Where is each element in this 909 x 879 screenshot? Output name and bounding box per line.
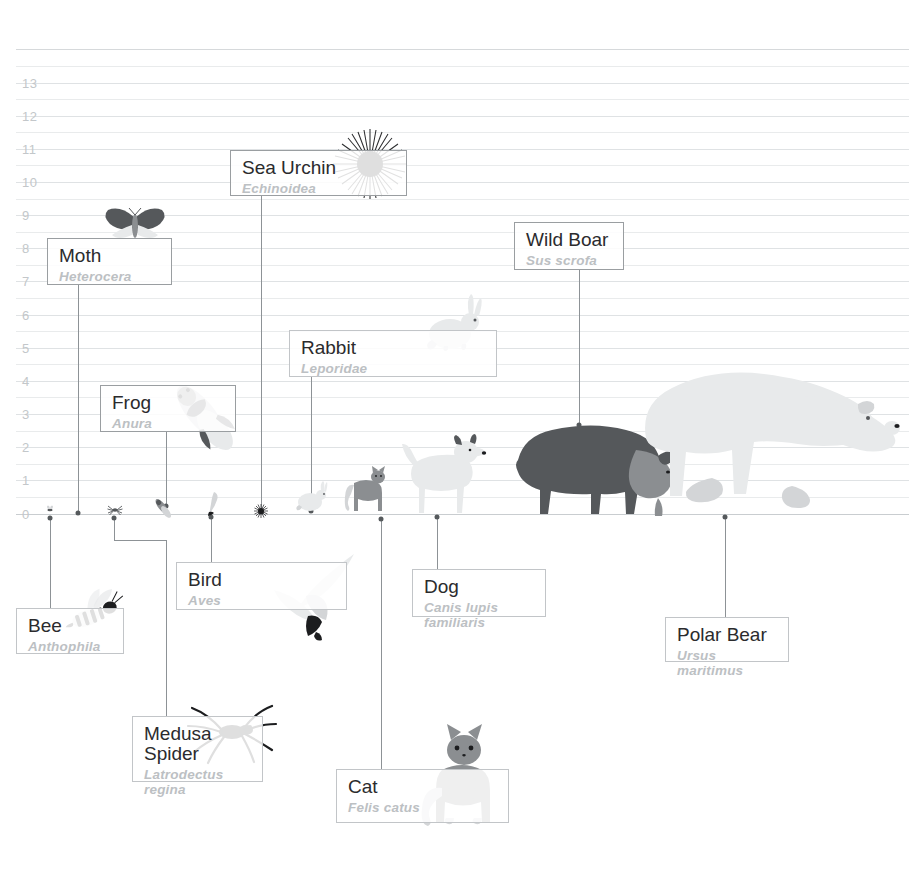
callout-bee-common: Bee: [28, 616, 113, 636]
callout-moth-scientific: Heterocera: [59, 269, 161, 284]
callout-cat-scientific: Felis catus: [348, 800, 498, 815]
cat-baseline-icon: [342, 455, 390, 515]
rabbit-baseline-icon: [294, 478, 330, 514]
callout-polar-bear[interactable]: Polar Bear Ursus maritimus: [665, 617, 789, 662]
polar-bear-illustration: [620, 368, 900, 520]
size-comparison-chart: 012345678910111213: [0, 0, 909, 879]
bee-baseline-icon: [44, 504, 56, 514]
spider-baseline-icon: [105, 502, 125, 516]
callout-wild-boar[interactable]: Wild Boar Sus scrofa: [514, 222, 624, 270]
callout-bee-scientific: Anthophila: [28, 639, 113, 654]
callout-sea-urchin[interactable]: Sea Urchin Echinoidea: [230, 150, 407, 196]
bird-baseline-icon: [203, 490, 223, 518]
callout-sea-urchin-scientific: Echinoidea: [242, 181, 396, 196]
callout-frog[interactable]: Frog Anura: [100, 385, 236, 432]
callout-sea-urchin-common: Sea Urchin: [242, 158, 396, 178]
callout-medusa-spider-scientific: Latrodectus regina: [144, 767, 252, 797]
dog-baseline-icon: [400, 432, 486, 516]
callout-medusa-spider-common: Medusa Spider: [144, 724, 252, 764]
callout-bird-common: Bird: [188, 570, 336, 590]
callout-moth[interactable]: Moth Heterocera: [47, 238, 172, 285]
callout-dog-common: Dog: [424, 577, 535, 597]
callout-wild-boar-common: Wild Boar: [526, 230, 613, 250]
callout-bird-scientific: Aves: [188, 593, 336, 608]
callout-polar-bear-common: Polar Bear: [677, 625, 778, 645]
callout-cat-common: Cat: [348, 777, 498, 797]
callout-rabbit-common: Rabbit: [301, 338, 486, 358]
callout-polar-bear-scientific: Ursus maritimus: [677, 648, 778, 678]
callout-bird[interactable]: Bird Aves: [176, 562, 347, 610]
callout-frog-common: Frog: [112, 393, 225, 413]
callout-cat[interactable]: Cat Felis catus: [336, 769, 509, 823]
callout-rabbit-scientific: Leporidae: [301, 361, 486, 376]
callout-medusa-spider[interactable]: Medusa Spider Latrodectus regina: [132, 716, 263, 782]
callout-dog[interactable]: Dog Canis lupis familiaris: [412, 569, 546, 617]
callout-wild-boar-scientific: Sus scrofa: [526, 253, 613, 268]
sea-urchin-baseline-icon: [253, 503, 269, 519]
callout-dog-scientific: Canis lupis familiaris: [424, 600, 535, 630]
callout-frog-scientific: Anura: [112, 416, 225, 431]
callout-moth-common: Moth: [59, 246, 161, 266]
callout-bee[interactable]: Bee Anthophila: [16, 608, 124, 654]
callout-rabbit[interactable]: Rabbit Leporidae: [289, 330, 497, 377]
frog-baseline-icon: [152, 494, 174, 522]
